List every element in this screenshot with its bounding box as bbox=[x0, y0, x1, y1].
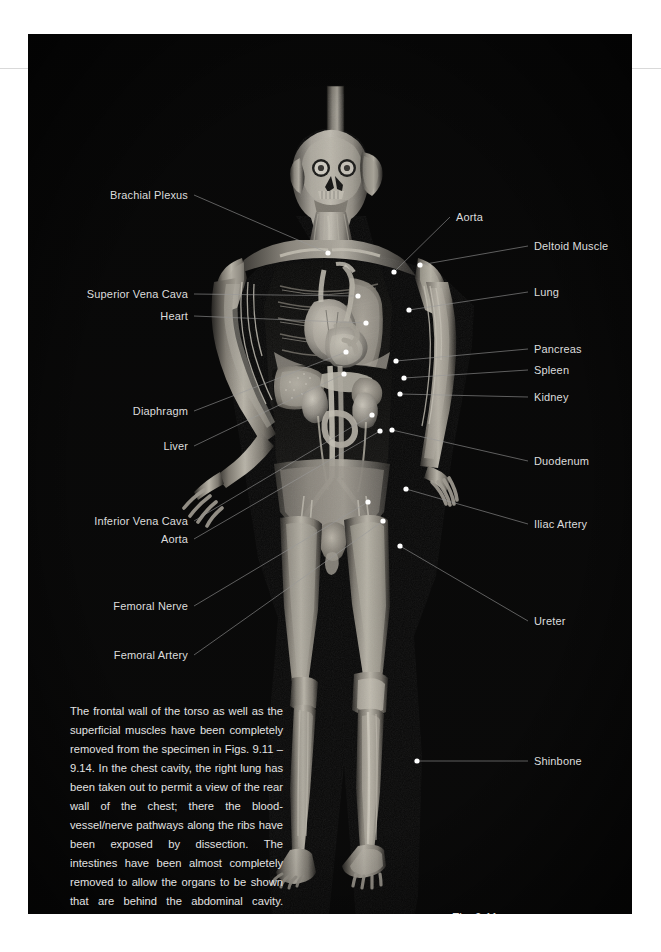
anatomy-label-femoral-nerve: Femoral Nerve bbox=[113, 600, 188, 613]
anatomy-label-aorta: Aorta bbox=[161, 533, 188, 546]
anatomy-label-superior-vena-cava: Superior Vena Cava bbox=[87, 288, 188, 301]
anatomy-label-inferior-vena-cava: Inferior Vena Cava bbox=[94, 515, 188, 528]
anatomy-label-diaphragm: Diaphragm bbox=[133, 405, 188, 418]
page-rule-right bbox=[632, 68, 661, 69]
anatomy-label-duodenum: Duodenum bbox=[534, 455, 589, 468]
anatomy-label-lung: Lung bbox=[534, 286, 559, 299]
anatomy-label-ureter: Ureter bbox=[534, 615, 565, 628]
anatomy-label-pancreas: Pancreas bbox=[534, 343, 582, 356]
anatomy-label-spleen: Spleen bbox=[534, 364, 569, 377]
anatomy-label-deltoid-muscle: Deltoid Muscle bbox=[534, 240, 608, 253]
anatomy-label-kidney: Kidney bbox=[534, 391, 569, 404]
anatomy-label-brachial-plexus: Brachial Plexus bbox=[110, 189, 188, 202]
anatomy-label-iliac-artery: Iliac Artery bbox=[534, 518, 587, 531]
figure-plate: Brachial PlexusSuperior Vena CavaHeartDi… bbox=[28, 34, 632, 914]
page-rule-left bbox=[0, 68, 28, 69]
anatomy-label-shinbone: Shinbone bbox=[534, 755, 582, 768]
figure-caption: The frontal wall of the torso as well as… bbox=[70, 702, 283, 914]
anatomy-label-liver: Liver bbox=[163, 440, 188, 453]
anatomy-label-aorta: Aorta bbox=[456, 211, 483, 224]
figure-number: Fig. 9.11 bbox=[451, 911, 497, 914]
anatomy-label-femoral-artery: Femoral Artery bbox=[114, 649, 188, 662]
anatomy-label-heart: Heart bbox=[160, 310, 188, 323]
anatomy-figure-page: Brachial PlexusSuperior Vena CavaHeartDi… bbox=[0, 0, 661, 952]
